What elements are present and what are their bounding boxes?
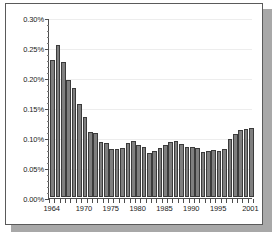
bar: [228, 139, 233, 197]
x-tick: [81, 199, 82, 203]
bar: [238, 130, 243, 197]
bar: [93, 133, 98, 197]
x-tick: [103, 199, 104, 203]
y-tick-minor: [47, 127, 49, 128]
x-axis-tick-label: 2001: [242, 204, 258, 213]
bar: [179, 144, 184, 197]
x-tick: [210, 199, 211, 203]
y-tick-minor: [47, 151, 49, 152]
x-tick: [54, 199, 55, 203]
x-tick: [167, 199, 168, 203]
bar: [131, 141, 136, 197]
bar: [88, 132, 93, 197]
x-tick: [253, 199, 254, 203]
chart-card: 0.00%0.05%0.10%0.15%0.20%0.25%0.30% 1964…: [5, 3, 263, 225]
y-tick-minor: [47, 193, 49, 194]
bar: [244, 129, 249, 197]
y-axis-tick-label: 0.20%: [23, 75, 44, 84]
bar: [190, 147, 195, 197]
x-axis-tick-label: 1990: [183, 204, 199, 213]
x-tick: [140, 199, 141, 203]
y-tick-minor: [47, 121, 49, 122]
y-tick-minor: [47, 37, 49, 38]
y-axis-tick-label: 0.00%: [23, 195, 44, 204]
bar: [109, 149, 114, 197]
x-tick: [199, 199, 200, 203]
y-tick-minor: [47, 157, 49, 158]
y-tick-minor: [47, 67, 49, 68]
plot-area: [48, 19, 252, 199]
x-tick: [108, 199, 109, 203]
x-axis-tick-label: 1985: [156, 204, 172, 213]
y-tick-minor: [47, 91, 49, 92]
bar: [211, 150, 216, 197]
y-tick-minor: [47, 115, 49, 116]
y-axis-tick-label: 0.10%: [23, 135, 44, 144]
bar: [120, 148, 125, 197]
bar: [158, 148, 163, 197]
x-tick: [130, 199, 131, 203]
bar: [99, 142, 104, 197]
y-tick-major: [45, 169, 49, 170]
x-tick: [226, 199, 227, 203]
bar: [115, 149, 120, 197]
y-tick-major: [45, 139, 49, 140]
y-tick-minor: [47, 85, 49, 86]
x-tick: [172, 199, 173, 203]
y-axis-tick-label: 0.05%: [23, 165, 44, 174]
y-tick-minor: [47, 175, 49, 176]
x-tick: [151, 199, 152, 203]
x-tick: [162, 199, 163, 203]
x-tick: [248, 199, 249, 203]
y-tick-major: [45, 49, 49, 50]
bar: [233, 134, 238, 197]
x-tick: [237, 199, 238, 203]
x-axis-tick-labels: 19641970197519801985199019952001: [49, 204, 253, 218]
bar: [206, 151, 211, 197]
bar: [249, 128, 254, 197]
y-axis-tick-label: 0.30%: [23, 15, 44, 24]
x-tick: [119, 199, 120, 203]
plot-wrapper: 0.00%0.05%0.10%0.15%0.20%0.25%0.30% 1964…: [6, 4, 262, 224]
x-tick: [92, 199, 93, 203]
y-tick-minor: [47, 145, 49, 146]
x-tick: [113, 199, 114, 203]
x-tick: [215, 199, 216, 203]
x-tick: [76, 199, 77, 203]
bar: [142, 147, 147, 197]
bar: [104, 143, 109, 197]
y-tick-minor: [47, 43, 49, 44]
y-tick-minor: [47, 25, 49, 26]
y-tick-minor: [47, 187, 49, 188]
x-axis-tick-label: 1995: [210, 204, 226, 213]
bar: [201, 152, 206, 197]
y-tick-minor: [47, 31, 49, 32]
bar: [66, 80, 71, 197]
bar: [72, 88, 77, 197]
y-tick-minor: [47, 163, 49, 164]
x-tick: [205, 199, 206, 203]
x-tick: [194, 199, 195, 203]
bars-layer: [50, 19, 252, 197]
bar: [126, 143, 131, 197]
bar: [163, 145, 168, 197]
x-tick: [70, 199, 71, 203]
y-tick-minor: [47, 73, 49, 74]
bar: [61, 62, 66, 197]
y-tick-minor: [47, 103, 49, 104]
x-tick: [232, 199, 233, 203]
x-axis-tick-label: 1980: [129, 204, 145, 213]
bar: [217, 151, 222, 197]
x-tick: [183, 199, 184, 203]
x-axis-tick-label: 1970: [76, 204, 92, 213]
y-tick-minor: [47, 181, 49, 182]
x-tick: [87, 199, 88, 203]
bar: [77, 104, 82, 197]
y-tick-major: [45, 19, 49, 20]
y-axis-tick-labels: 0.00%0.05%0.10%0.15%0.20%0.25%0.30%: [6, 19, 44, 199]
x-tick: [178, 199, 179, 203]
bar: [83, 117, 88, 197]
x-tick: [156, 199, 157, 203]
y-axis-tick-label: 0.15%: [23, 105, 44, 114]
bar: [152, 151, 157, 197]
